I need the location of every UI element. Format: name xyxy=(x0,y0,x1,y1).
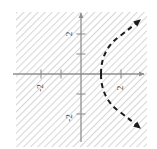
coordinate-plane-svg: 2 -2 -2 2 xyxy=(0,0,157,149)
y-axis-label-2: 2 xyxy=(64,32,74,37)
y-axis-label-minus-2: -2 xyxy=(64,114,74,122)
x-axis-label-minus-2: -2 xyxy=(35,84,45,92)
coordinate-plane-figure: 2 -2 -2 2 xyxy=(0,0,157,149)
x-axis-label-2: 2 xyxy=(115,86,125,91)
